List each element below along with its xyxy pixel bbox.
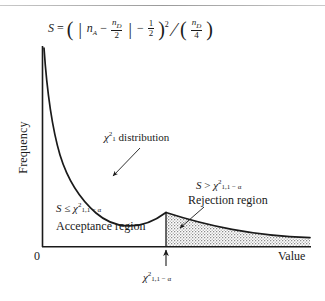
curve-label-subscript: 1 bbox=[112, 135, 116, 143]
y-axis-label: Frequency bbox=[16, 103, 31, 193]
critical-value-subscript: 1,1 − α bbox=[151, 275, 171, 283]
acceptance-condition: S ≤ χ21,1 − α bbox=[56, 201, 101, 214]
x-axis-label: Value bbox=[278, 249, 305, 264]
curve-label: χ21 distribution bbox=[104, 130, 169, 143]
critical-value-label: χ21,1 − α bbox=[143, 270, 171, 283]
rejection-region-label: Rejection region bbox=[188, 193, 268, 208]
rejection-condition-subscript: 1,1 − α bbox=[222, 183, 242, 191]
x-axis-origin-label: 0 bbox=[34, 249, 40, 264]
chi-square-distribution-plot bbox=[0, 0, 325, 301]
curve-label-text: distribution bbox=[119, 131, 170, 143]
acceptance-condition-subscript: 1,1 − α bbox=[81, 206, 101, 214]
acceptance-condition-operator: ≤ bbox=[64, 202, 70, 214]
rejection-condition-lhs: S bbox=[196, 179, 202, 191]
acceptance-condition-lhs: S bbox=[56, 202, 62, 214]
rejection-condition: S > χ21,1 − α bbox=[196, 178, 241, 191]
acceptance-region-label: Acceptance region bbox=[56, 219, 146, 234]
curve-label-leader-line bbox=[113, 148, 140, 176]
rejection-condition-operator: > bbox=[204, 179, 210, 191]
